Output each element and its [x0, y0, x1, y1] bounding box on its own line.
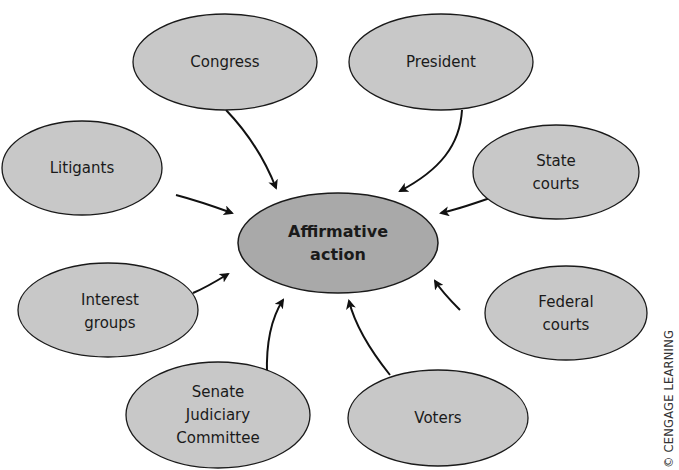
node-federal-courts: Federal courts — [485, 266, 647, 360]
edge-litigants — [176, 195, 232, 213]
edge-president — [400, 110, 462, 191]
node-label: President — [406, 53, 476, 71]
edge-senate — [267, 300, 283, 375]
node-label-line1: Interest — [81, 291, 139, 309]
node-label: Congress — [190, 53, 260, 71]
edge-voters — [349, 301, 390, 375]
node-label-line2: courts — [533, 175, 580, 193]
center-label-line1: Affirmative — [288, 222, 388, 241]
center-label-line2: action — [310, 245, 366, 264]
node-label-line1: State — [536, 152, 576, 170]
node-label: Litigants — [50, 159, 115, 177]
node-litigants: Litigants — [2, 121, 162, 215]
edge-federal-courts — [435, 281, 460, 310]
node-president: President — [349, 14, 533, 110]
diagram-canvas: Congress President Litigants State court… — [0, 0, 679, 470]
node-label-line2: groups — [84, 314, 136, 332]
node-label-line2: courts — [543, 316, 590, 334]
copyright-credit: © CENGAGE LEARNING — [662, 330, 676, 468]
node-affirmative-action: Affirmative action — [238, 193, 438, 293]
node-senate-judiciary-committee: Senate Judiciary Committee — [126, 362, 310, 468]
node-congress: Congress — [133, 14, 317, 110]
node-label-line1: Federal — [538, 293, 593, 311]
node-label-line3: Committee — [176, 429, 259, 447]
edge-congress — [226, 110, 276, 188]
diagram-svg: Congress President Litigants State court… — [0, 0, 679, 470]
node-label-line1: Senate — [192, 383, 245, 401]
node-label: Voters — [414, 409, 462, 427]
edge-state-courts — [441, 198, 490, 213]
node-state-courts: State courts — [473, 125, 639, 219]
edge-interest-groups — [193, 274, 228, 293]
node-label-line2: Judiciary — [185, 406, 250, 424]
node-voters: Voters — [348, 370, 528, 466]
node-interest-groups: Interest groups — [18, 263, 198, 357]
